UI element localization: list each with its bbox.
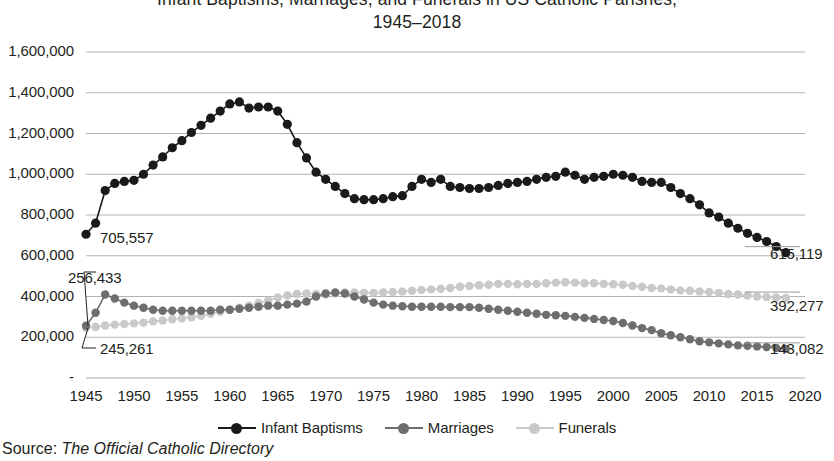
series-point (465, 282, 473, 290)
series-point (647, 326, 655, 334)
series-point (522, 177, 531, 186)
series-line (86, 102, 786, 253)
funerals-start-label: 245,261 (100, 340, 154, 357)
series-point (149, 306, 157, 314)
series-point (120, 177, 129, 186)
series-point (216, 106, 225, 115)
series-point (254, 302, 262, 310)
series-point (197, 307, 205, 315)
series-point (226, 306, 234, 314)
y-axis-tick-label: 400,000 (0, 287, 74, 304)
series-point (599, 172, 608, 181)
series-point (398, 302, 406, 310)
series-point (283, 291, 291, 299)
series-point (388, 192, 397, 201)
series-point (139, 170, 148, 179)
series-point (695, 200, 704, 209)
series-point (244, 103, 253, 112)
series-point (168, 315, 176, 323)
series-point (302, 297, 310, 305)
series-point (196, 121, 205, 130)
series-point (110, 179, 119, 188)
series-point (245, 304, 253, 312)
series-point (599, 316, 607, 324)
series-point (293, 299, 301, 307)
series-point (542, 173, 551, 182)
series-point (408, 302, 416, 310)
series-point (513, 308, 521, 316)
series-point (705, 338, 713, 346)
series-point (686, 335, 694, 343)
funerals-end-label: 392,277 (770, 297, 824, 314)
legend-label: Funerals (559, 419, 617, 436)
legend-item[interactable]: Infant Baptisms (218, 419, 363, 436)
series-point (523, 280, 531, 288)
series-point (552, 311, 560, 319)
series-point (753, 342, 761, 350)
series-point (494, 306, 502, 314)
series-point (609, 317, 617, 325)
series-point (111, 320, 119, 328)
series-point (532, 280, 540, 288)
series-point (274, 301, 282, 309)
series-point (187, 307, 195, 315)
series-point (715, 289, 723, 297)
series-point (283, 300, 291, 308)
series-point (427, 178, 436, 187)
series-point (609, 170, 618, 179)
series-point (293, 290, 301, 298)
series-point (753, 292, 761, 300)
series-point (311, 168, 320, 177)
series-point (359, 195, 368, 204)
series-point (178, 307, 186, 315)
series-point (715, 339, 723, 347)
legend-item[interactable]: Marriages (385, 419, 494, 436)
series-point (350, 292, 358, 300)
series-point (667, 331, 675, 339)
series-point (379, 194, 388, 203)
source-prefix: Source: (2, 440, 62, 457)
series-point (714, 212, 723, 221)
chart-legend: Infant BaptismsMarriagesFunerals (0, 419, 834, 436)
series-point (398, 191, 407, 200)
series-point (686, 287, 694, 295)
series-point (599, 280, 607, 288)
series-point (130, 319, 138, 327)
series-point (647, 178, 656, 187)
series-point (657, 178, 666, 187)
series-point (552, 278, 560, 286)
series-point (340, 189, 349, 198)
series-point (149, 160, 158, 169)
series-point (417, 302, 425, 310)
series-point (494, 181, 503, 190)
series-point (695, 287, 703, 295)
series-point (273, 106, 282, 115)
series-point (389, 288, 397, 296)
source-publication: The Official Catholic Directory (62, 440, 274, 457)
legend-item[interactable]: Funerals (516, 419, 617, 436)
legend-label: Infant Baptisms (261, 419, 363, 436)
series-point (542, 279, 550, 287)
series-point (82, 322, 90, 330)
series-point (513, 178, 522, 187)
series-point (331, 288, 339, 296)
series-point (475, 281, 483, 289)
series-point (580, 175, 589, 184)
series-point (360, 295, 368, 303)
series-point (619, 319, 627, 327)
series-point (427, 302, 435, 310)
series-point (685, 194, 694, 203)
series-point (676, 286, 684, 294)
series-point (734, 341, 742, 349)
y-axis-tick-label: 200,000 (0, 327, 74, 344)
series-point (216, 306, 224, 314)
y-axis-tick-label: 1,400,000 (0, 83, 74, 100)
series-point (139, 318, 147, 326)
series-point (111, 294, 119, 302)
series-point (408, 287, 416, 295)
y-axis-tick-label: 1,000,000 (0, 164, 74, 181)
series-point (484, 305, 492, 313)
series-point (292, 138, 301, 147)
series-point (120, 298, 128, 306)
series-point (570, 171, 579, 180)
